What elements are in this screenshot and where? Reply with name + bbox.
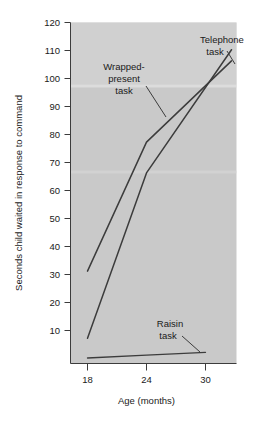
y-tick-label-40: 40 [49,241,60,252]
y-tick-label-10: 10 [49,325,60,336]
plot-band-line-2 [71,171,237,174]
annotation-wrapped-present-task-line-1: Wrapped- [103,61,145,72]
y-tick-label-120: 120 [44,17,60,28]
chart-figure: 120 110 100 90 80 70 60 50 40 30 20 10 1… [0,0,272,426]
y-tick-label-20: 20 [49,297,60,308]
annotation-telephone-task-line-1: Telephone [200,34,244,45]
x-tick-label-24: 24 [141,374,152,385]
y-tick-label-50: 50 [49,213,60,224]
annotation-raisin-task-line-2: task [159,330,177,341]
y-tick-label-90: 90 [49,101,60,112]
x-axis-title: Age (months) [118,395,175,406]
y-tick-label-70: 70 [49,157,60,168]
annotation-wrapped-present-task-line-2: present [108,73,140,84]
line-chart: 120 110 100 90 80 70 60 50 40 30 20 10 1… [0,0,272,426]
annotation-raisin-task-line-1: Raisin [157,318,183,329]
x-tick-label-30: 30 [200,374,211,385]
y-tick-label-100: 100 [44,73,60,84]
y-tick-label-60: 60 [49,185,60,196]
x-tick-label-18: 18 [82,374,93,385]
annotation-wrapped-present-task-line-3: task [115,85,133,96]
annotation-telephone-task-line-2: task [206,46,224,57]
y-tick-label-110: 110 [45,45,60,56]
y-tick-label-80: 80 [49,129,60,140]
y-tick-label-30: 30 [49,269,60,280]
plot-band-line-1 [71,85,237,88]
y-axis-title: Seconds child waited in response to comm… [13,95,24,291]
